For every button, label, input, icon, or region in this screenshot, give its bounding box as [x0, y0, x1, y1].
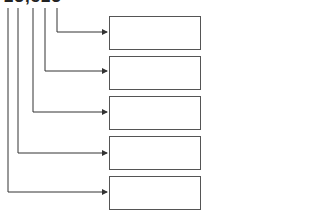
- target-box-2: [109, 56, 201, 90]
- target-box-4: [109, 136, 201, 170]
- target-box-1: [109, 16, 201, 50]
- target-box-3: [109, 96, 201, 130]
- target-box-5: [109, 176, 201, 210]
